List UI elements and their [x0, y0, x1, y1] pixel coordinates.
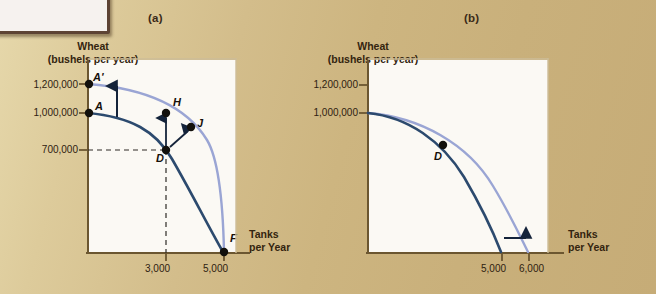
panel-a-arrow-D-to-J	[170, 131, 188, 147]
panel-a-point-marker-F	[220, 248, 228, 256]
panel-a-point-marker-D	[162, 146, 170, 154]
panel-b-axes	[359, 58, 564, 261]
panel-a-point-marker-A-prime	[85, 80, 93, 88]
figure-vector-overlay	[0, 0, 656, 294]
panel-b-outer-frontier-curve	[368, 113, 528, 252]
panel-a-point-marker-A	[85, 109, 93, 117]
panel-a-outer-frontier-curve	[88, 84, 224, 252]
panel-a-point-marker-J	[187, 123, 195, 131]
panel-b-point-marker-D	[439, 141, 447, 149]
panel-b-inner-frontier-curve	[368, 113, 501, 252]
panel-a-point-marker-H	[162, 109, 170, 117]
figure-container: (a) Wheat (bushels per year) Tanks per Y…	[0, 0, 656, 294]
